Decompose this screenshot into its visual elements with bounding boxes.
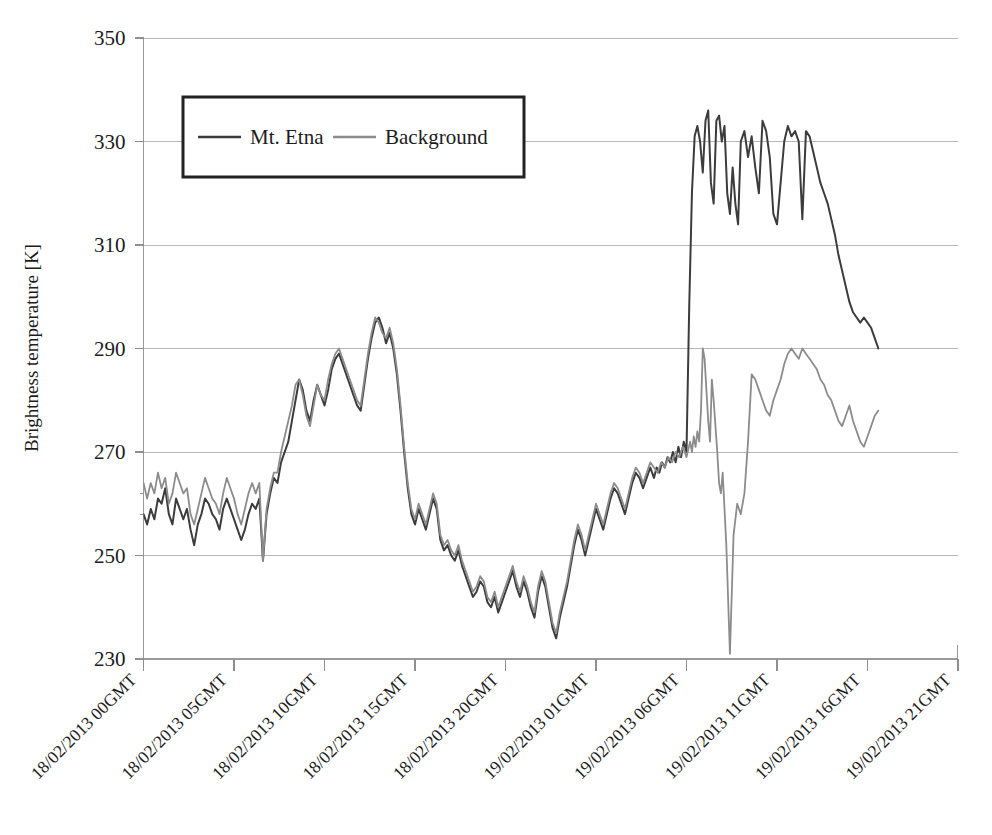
y-tick-label-290: 290	[94, 337, 126, 361]
figure-container: 230250270290310330350 18/02/2013 00GMT18…	[0, 0, 992, 835]
y-tick-label-350: 350	[94, 26, 126, 50]
y-tick-label-230: 230	[94, 647, 126, 671]
legend-label-background: Background	[385, 125, 488, 149]
y-tick-label-330: 330	[94, 130, 126, 154]
y-tick-label-270: 270	[94, 440, 126, 464]
y-tick-label-250: 250	[94, 544, 126, 568]
brightness-temperature-chart: 230250270290310330350 18/02/2013 00GMT18…	[0, 0, 992, 835]
legend-label-mt-etna: Mt. Etna	[250, 125, 324, 149]
y-axis-title: Brightness temperature [K]	[21, 244, 42, 452]
y-tick-label-310: 310	[94, 233, 126, 257]
legend: Mt. Etna Background	[183, 97, 524, 177]
